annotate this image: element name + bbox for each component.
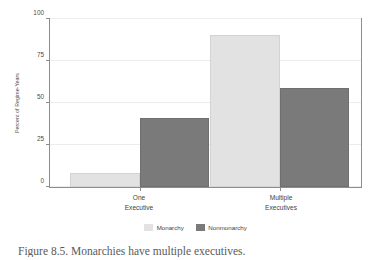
bar-monarchy-one-executive[interactable]	[70, 173, 140, 187]
bar-monarchy-multiple-executives[interactable]	[210, 35, 280, 187]
y-axis-title: Percent of Regime-Years	[14, 48, 20, 158]
y-tick-label-25: 25	[37, 135, 44, 142]
legend-swatch-nonmonarchy	[196, 224, 205, 231]
x-category-line-1: Multiple	[265, 193, 297, 203]
y-tick-label-50: 50	[37, 93, 44, 100]
x-category-label-multiple-executives: Multiple Executives	[265, 193, 297, 212]
legend-swatch-monarchy	[144, 224, 153, 231]
x-category-line-1: One	[125, 193, 154, 203]
legend-item-nonmonarchy[interactable]: Nonmonarchy	[196, 224, 247, 231]
y-tick-label-75: 75	[37, 51, 44, 58]
x-category-label-one-executive: One Executive	[125, 193, 154, 212]
y-tick-75	[46, 60, 50, 61]
plot-area: 100 75 50 25 0	[49, 18, 362, 188]
bar-nonmonarchy-multiple-executives[interactable]	[280, 88, 350, 187]
x-category-line-2: Executives	[265, 203, 297, 213]
y-tick-25	[46, 144, 50, 145]
x-tick-multiple-executives	[280, 187, 281, 191]
chart-legend: Monarchy Nonmonarchy	[0, 224, 391, 231]
y-tick-label-100: 100	[33, 9, 44, 16]
plot-canvas: 100 75 50 25 0	[50, 19, 361, 187]
legend-label-nonmonarchy: Nonmonarchy	[208, 224, 247, 231]
y-tick-100	[46, 18, 50, 19]
gridline-75	[50, 60, 361, 61]
bar-nonmonarchy-one-executive[interactable]	[140, 118, 210, 187]
legend-label-monarchy: Monarchy	[157, 224, 184, 231]
y-tick-50	[46, 102, 50, 103]
figure-container: Percent of Regime-Years 100 75 50 25 0	[0, 0, 391, 260]
legend-item-monarchy[interactable]: Monarchy	[144, 224, 184, 231]
x-tick-one-executive	[140, 187, 141, 191]
y-tick-0	[46, 186, 50, 187]
gridline-100	[50, 18, 361, 19]
figure-caption: Figure 8.5. Monarchies have multiple exe…	[18, 245, 378, 257]
y-tick-label-0: 0	[40, 177, 44, 184]
x-category-line-2: Executive	[125, 203, 154, 213]
